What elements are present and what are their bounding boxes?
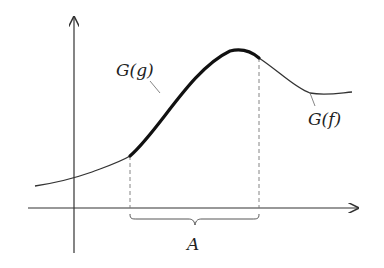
graph-g-leader-line — [150, 81, 160, 93]
interval-label: A — [185, 234, 199, 254]
interval-brace — [130, 214, 259, 225]
graph-f-leader-line — [310, 93, 315, 106]
graph-f-label: G(f) — [308, 109, 341, 129]
graph-g-label: G(g) — [116, 60, 154, 80]
graph-diagram: G(g) G(f) A — [0, 0, 384, 268]
graph-f-curve — [35, 50, 352, 186]
